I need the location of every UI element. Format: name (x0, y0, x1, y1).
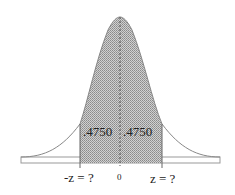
normal-curve-diagram (0, 0, 235, 195)
right-bound-label: z = ? (150, 171, 175, 187)
shaded-area (80, 17, 162, 163)
center-label: 0 (117, 172, 122, 182)
right-area-label: .4750 (123, 124, 152, 140)
left-bound-label: -z = ? (64, 170, 94, 186)
left-area-label: .4750 (83, 124, 112, 140)
